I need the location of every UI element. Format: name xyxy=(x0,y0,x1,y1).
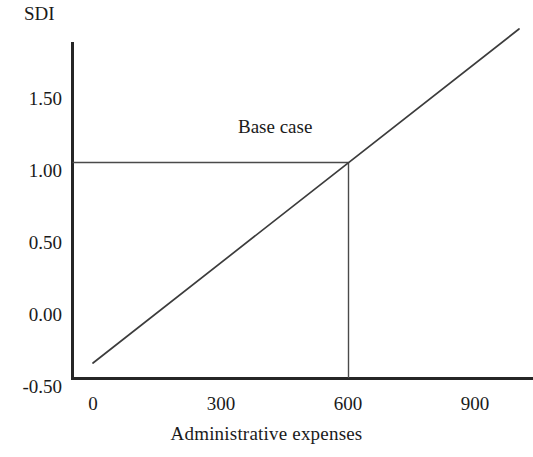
y-tick-label-1-50: 1.50 xyxy=(0,89,62,108)
x-tick-label-300: 300 xyxy=(181,394,261,413)
x-tick-label-600: 600 xyxy=(308,394,388,413)
chart-plot-area xyxy=(0,0,533,457)
x-tick-label-900: 900 xyxy=(435,394,515,413)
x-axis-title: Administrative expenses xyxy=(0,424,533,443)
y-tick-label-1-00: 1.00 xyxy=(0,161,62,180)
sdi-data-line xyxy=(93,29,519,363)
y-axis-title: SDI xyxy=(24,4,55,23)
y-tick-label-0-50: 0.50 xyxy=(0,233,62,252)
base-case-annotation-label: Base case xyxy=(238,117,312,136)
x-tick-label-0: 0 xyxy=(53,394,133,413)
y-tick-label-0-00: 0.00 xyxy=(0,305,62,324)
chart-figure: SDI 1.50 1.00 0.50 0.00 -0.50 0 300 600 … xyxy=(0,0,533,457)
